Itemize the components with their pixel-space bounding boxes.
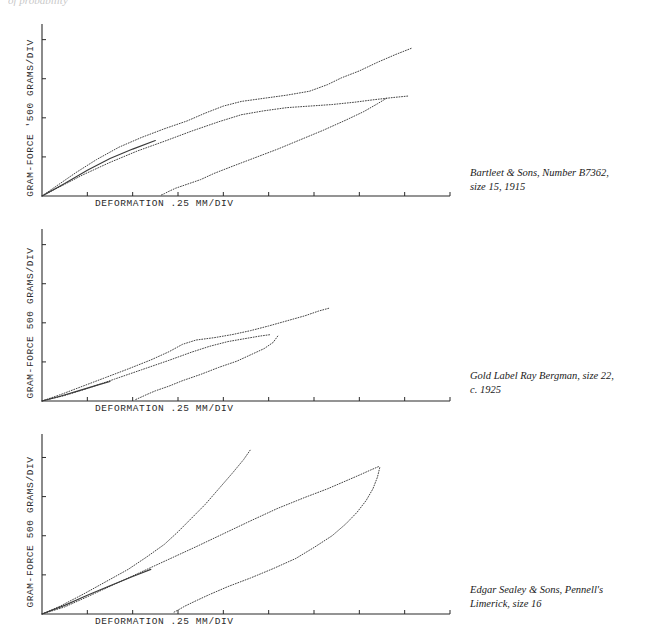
- caption-line: c. 1925: [470, 383, 642, 397]
- caption-line: Bartleet & Sons, Number B7362,: [470, 166, 642, 180]
- chart-panel-bergman: GRAM-FORCE 500 GRAMS/DIV DEFORMATION .25…: [0, 223, 648, 423]
- chart-panel-bartleet: GRAM-FORCE '500 GRAMS/DIV DEFORMATION .2…: [0, 18, 648, 218]
- curve-loading-outer: [42, 48, 411, 196]
- x-axis-label-3: DEFORMATION .25 MM/DIV: [95, 616, 234, 627]
- curve-return-leg: [42, 381, 110, 401]
- plot-area-2: GRAM-FORCE 500 GRAMS/DIV: [22, 223, 454, 423]
- caption-line: Edgar Sealey & Sons, Pennell's: [470, 583, 642, 597]
- curve-unloading: [135, 336, 278, 400]
- curve-loading-outer: [42, 450, 251, 614]
- plot-area-3: GRAM-FORCE 500 GRAMS/DIV: [22, 428, 454, 636]
- caption-line: size 15, 1915: [470, 180, 642, 194]
- hysteresis-plot-2: [22, 223, 454, 423]
- caption-3: Edgar Sealey & Sons, Pennell's Limerick,…: [470, 583, 642, 610]
- chart-panel-sealey: GRAM-FORCE 500 GRAMS/DIV DEFORMATION .25…: [0, 428, 648, 636]
- caption-line: Gold Label Ray Bergman, size 22,: [470, 369, 642, 383]
- plot-area-1: GRAM-FORCE '500 GRAMS/DIV: [22, 18, 454, 218]
- curve-loading-inner: [42, 466, 380, 614]
- caption-line: Limerick, size 16: [470, 597, 642, 611]
- caption-2: Gold Label Ray Bergman, size 22, c. 1925: [470, 369, 642, 396]
- hysteresis-plot-1: [22, 18, 454, 218]
- caption-1: Bartleet & Sons, Number B7362, size 15, …: [470, 166, 642, 193]
- x-axis-label-2: DEFORMATION .25 MM/DIV: [95, 403, 234, 414]
- curve-loading-inner: [42, 96, 409, 196]
- curve-return-leg: [42, 569, 151, 614]
- curve-unloading: [173, 468, 379, 613]
- x-axis-label-1: DEFORMATION .25 MM/DIV: [95, 198, 234, 209]
- curve-unloading: [161, 98, 387, 195]
- top-cropped-text: of probability: [8, 0, 308, 8]
- hysteresis-plot-3: [22, 428, 454, 636]
